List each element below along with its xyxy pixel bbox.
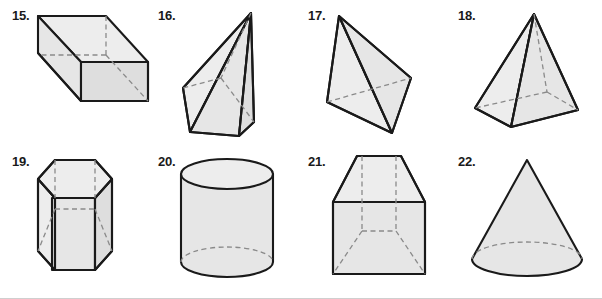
figure-sheet: 15. 16.: [0, 0, 602, 299]
figure-15-cell: 15.: [0, 0, 150, 146]
prism-front-face: [81, 62, 148, 101]
cone-body: [472, 160, 582, 276]
cylinder-top-ellipse: [181, 159, 273, 189]
figure-17-triangular-pyramid: [300, 0, 450, 146]
figure-17-cell: 17.: [300, 0, 450, 146]
trapprism-front-face: [333, 202, 425, 274]
figure-16-cell: 16.: [150, 0, 300, 146]
figure-20-cylinder: [150, 146, 300, 292]
figure-22-cone: [450, 146, 600, 292]
figure-20-cell: 20.: [150, 146, 300, 292]
trapprism-top-face: [333, 156, 425, 202]
figure-18-cell: 18.: [450, 0, 600, 146]
figure-21-trapezoidal-prism: [300, 146, 450, 292]
figure-18-square-pyramid: [450, 0, 600, 146]
figure-15-rectangular-prism: [0, 0, 150, 146]
figure-22-cell: 22.: [450, 146, 600, 292]
figure-19-hexagonal-prism: [0, 146, 150, 292]
figure-16-oblique-pyramid: [150, 0, 300, 146]
figure-21-cell: 21.: [300, 146, 450, 292]
figure-19-cell: 19.: [0, 146, 150, 292]
